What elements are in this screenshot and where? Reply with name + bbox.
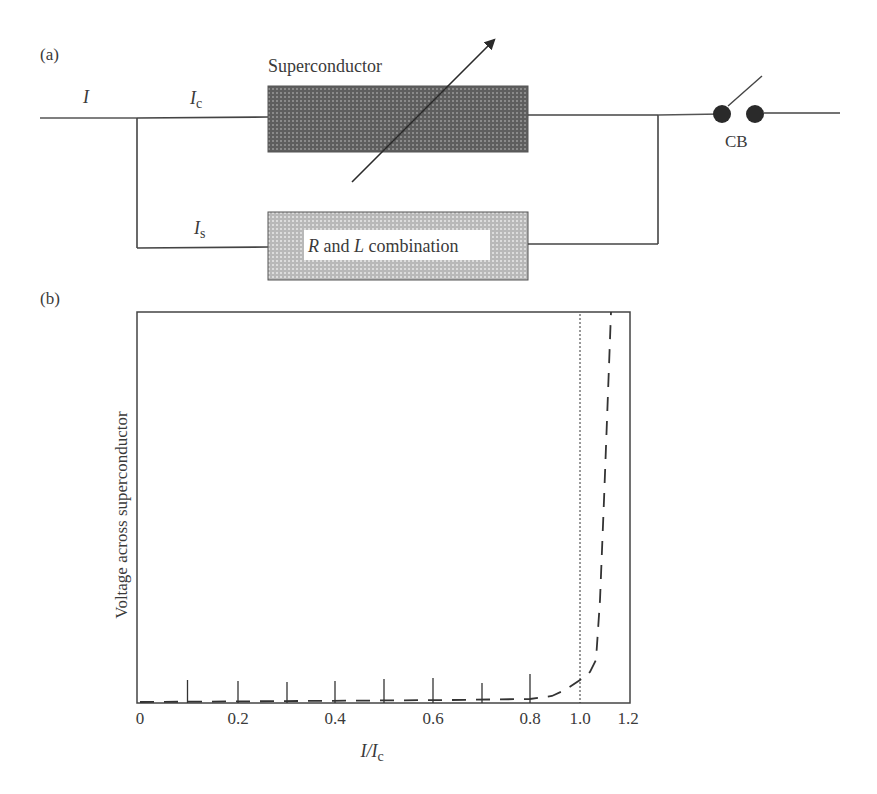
- circuit-breaker-icon: [713, 76, 764, 123]
- svg-text:0.8: 0.8: [519, 709, 540, 728]
- is-label: Is: [193, 218, 205, 241]
- svg-text:0: 0: [136, 709, 145, 728]
- total-current-label: I: [82, 87, 90, 107]
- superconductor-label: Superconductor: [268, 56, 382, 76]
- rl-label: R and L combination: [307, 236, 459, 256]
- cb-label: CB: [725, 132, 748, 151]
- plot-frame: [137, 312, 630, 703]
- vi-chart: (b) Voltage across superconductor 0 0.2 …: [40, 289, 639, 764]
- lower-branch-wire: [137, 247, 268, 248]
- panel-b-label: (b): [40, 289, 60, 308]
- x-tick-marks: [188, 674, 531, 703]
- x-tick-labels: 0 0.2 0.4 0.6 0.8 1.0 1.2: [136, 709, 639, 728]
- x-axis-label: I/Ic: [359, 741, 383, 764]
- figure-canvas: (a) I Ic Is Superconductor R and L combi…: [0, 0, 877, 794]
- svg-text:1.2: 1.2: [617, 709, 638, 728]
- y-axis-label: Voltage across superconductor: [112, 411, 131, 619]
- svg-text:0.2: 0.2: [227, 709, 248, 728]
- superconductor-block: [268, 86, 528, 152]
- svg-text:1.0: 1.0: [569, 709, 590, 728]
- to-breaker-wire: [658, 114, 722, 115]
- ic-label: Ic: [189, 88, 202, 111]
- panel-a-label: (a): [40, 45, 59, 64]
- upper-branch-wire: [137, 117, 268, 118]
- svg-text:0.4: 0.4: [324, 709, 346, 728]
- vi-curve: [140, 312, 611, 702]
- svg-text:0.6: 0.6: [422, 709, 443, 728]
- circuit-diagram: (a) I Ic Is Superconductor R and L combi…: [40, 40, 840, 280]
